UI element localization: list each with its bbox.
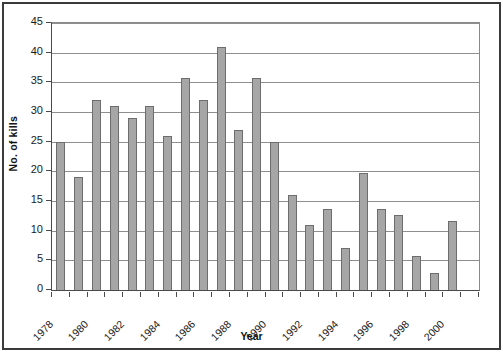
x-axis-tick — [140, 292, 141, 297]
x-axis-title: Year — [4, 330, 499, 342]
y-axis-tick — [46, 141, 51, 142]
bar — [252, 78, 261, 290]
y-axis-tick — [46, 289, 51, 290]
x-axis-tick — [282, 292, 283, 297]
chart-frame: No. of kills 051015202530354045197819801… — [2, 2, 501, 350]
x-axis-tick — [389, 292, 390, 297]
y-axis-tick — [46, 22, 51, 23]
plot-area — [51, 22, 480, 291]
y-axis-label: 40 — [3, 45, 43, 57]
bar — [377, 209, 386, 290]
gridline — [52, 23, 479, 24]
bar — [288, 195, 297, 290]
x-axis-tick — [122, 292, 123, 297]
x-axis-tick — [193, 292, 194, 297]
y-axis-tick — [46, 230, 51, 231]
y-axis-label: 5 — [3, 252, 43, 264]
bar — [92, 100, 101, 290]
y-axis-tick — [46, 52, 51, 53]
y-axis-tick — [46, 170, 51, 171]
x-axis-tick — [353, 292, 354, 297]
y-axis-label: 0 — [3, 282, 43, 294]
x-axis-tick — [425, 292, 426, 297]
x-axis-tick — [69, 292, 70, 297]
bar — [110, 106, 119, 290]
x-axis-tick — [265, 292, 266, 297]
x-axis-tick — [87, 292, 88, 297]
y-axis-tick — [46, 200, 51, 201]
bar — [412, 256, 421, 290]
bar — [234, 130, 243, 290]
x-axis-tick — [478, 292, 479, 297]
x-axis-tick — [300, 292, 301, 297]
bar — [359, 173, 368, 290]
y-axis-label: 20 — [3, 163, 43, 175]
gridline — [52, 53, 479, 54]
y-axis-tick — [46, 111, 51, 112]
bar — [74, 177, 83, 290]
bar — [430, 273, 439, 290]
x-axis-tick — [51, 292, 52, 297]
x-axis-tick — [371, 292, 372, 297]
bar — [181, 78, 190, 290]
bar — [163, 136, 172, 290]
bar — [145, 106, 154, 290]
x-axis-tick — [247, 292, 248, 297]
y-axis-tick — [46, 259, 51, 260]
x-axis-tick — [211, 292, 212, 297]
y-axis-label: 45 — [3, 15, 43, 27]
y-axis-tick — [46, 81, 51, 82]
gridline — [52, 82, 479, 83]
x-axis-tick — [407, 292, 408, 297]
bar — [217, 47, 226, 290]
bar — [323, 209, 332, 290]
x-axis-tick — [158, 292, 159, 297]
x-axis-tick — [176, 292, 177, 297]
bar — [128, 118, 137, 290]
bar — [199, 100, 208, 290]
x-axis-tick — [229, 292, 230, 297]
y-axis-label: 10 — [3, 223, 43, 235]
y-axis-label: 30 — [3, 104, 43, 116]
bar — [305, 225, 314, 290]
bar — [56, 142, 65, 290]
x-axis-tick — [460, 292, 461, 297]
bar — [341, 248, 350, 290]
x-axis-tick — [336, 292, 337, 297]
x-axis-tick — [318, 292, 319, 297]
y-axis-label: 25 — [3, 134, 43, 146]
bar — [448, 221, 457, 290]
x-axis-tick — [104, 292, 105, 297]
y-axis-label: 15 — [3, 193, 43, 205]
bar — [394, 215, 403, 290]
x-axis-tick — [442, 292, 443, 297]
y-axis-label: 35 — [3, 74, 43, 86]
bar — [270, 142, 279, 290]
